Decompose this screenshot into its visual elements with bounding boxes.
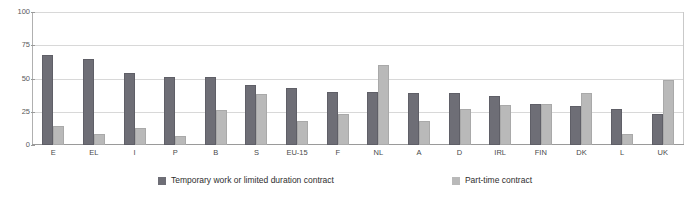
bar-D-series2 [460, 109, 471, 145]
bar-S-series2 [256, 94, 267, 145]
legend-label-1: Temporary work or limited duration contr… [171, 176, 334, 185]
bar-group-EL [74, 12, 115, 145]
bar-NL-series2 [378, 65, 389, 145]
bar-FIN-series1 [530, 104, 541, 145]
x-label-A: A [399, 148, 440, 157]
x-label-NL: NL [358, 148, 399, 157]
bar-FIN-series2 [541, 104, 552, 145]
x-label-IRL: IRL [480, 148, 521, 157]
bar-group-S [236, 12, 277, 145]
bar-EL-series2 [94, 134, 105, 145]
bar-chart: 0255075100 EELIPBSEU-15FNLADIRLFINDKLUK … [0, 0, 690, 205]
bar-S-series1 [245, 85, 256, 145]
y-tick-label-0: 0 [0, 141, 30, 148]
y-tick-label-25: 25 [0, 108, 30, 115]
y-tick-mark-0 [31, 145, 35, 146]
chart-legend: Temporary work or limited duration contr… [0, 176, 690, 185]
x-label-DK: DK [561, 148, 602, 157]
bar-group-FIN [521, 12, 562, 145]
bar-group-A [399, 12, 440, 145]
bar-group-EU-15 [277, 12, 318, 145]
x-label-P: P [155, 148, 196, 157]
bar-DK-series1 [570, 106, 581, 145]
x-axis-labels: EELIPBSEU-15FNLADIRLFINDKLUK [33, 148, 683, 157]
legend-item-2[interactable]: Part-time contract [452, 176, 532, 185]
bar-P-series1 [164, 77, 175, 145]
x-label-EL: EL [74, 148, 115, 157]
x-label-FIN: FIN [521, 148, 562, 157]
x-label-E: E [33, 148, 74, 157]
legend-swatch-dark [158, 177, 166, 185]
y-tick-label-50: 50 [0, 75, 30, 82]
bar-D-series1 [449, 93, 460, 145]
bar-B-series2 [216, 110, 227, 145]
legend-swatch-light [452, 177, 460, 185]
bar-L-series2 [622, 134, 633, 145]
bar-UK-series1 [652, 114, 663, 145]
bar-I-series2 [135, 128, 146, 145]
x-label-UK: UK [642, 148, 683, 157]
bar-group-D [439, 12, 480, 145]
y-tick-label-100: 100 [0, 8, 30, 15]
bar-group-I [114, 12, 155, 145]
bar-group-B [196, 12, 237, 145]
x-label-EU-15: EU-15 [277, 148, 318, 157]
bar-group-L [602, 12, 643, 145]
bar-P-series2 [175, 136, 186, 145]
bar-F-series2 [338, 114, 349, 145]
bar-EL-series1 [83, 59, 94, 145]
bar-EU-15-series2 [297, 121, 308, 145]
x-label-D: D [439, 148, 480, 157]
bar-IRL-series2 [500, 105, 511, 145]
bar-group-UK [642, 12, 683, 145]
bar-DK-series2 [581, 93, 592, 145]
bar-UK-series2 [663, 80, 674, 145]
bar-group-E [33, 12, 74, 145]
bar-group-P [155, 12, 196, 145]
bar-NL-series1 [367, 92, 378, 145]
y-tick-label-75: 75 [0, 41, 30, 48]
bar-group-F [317, 12, 358, 145]
bar-group-IRL [480, 12, 521, 145]
plot-area: 0255075100 EELIPBSEU-15FNLADIRLFINDKLUK [0, 0, 690, 160]
legend-label-2: Part-time contract [465, 176, 532, 185]
bar-B-series1 [205, 77, 216, 145]
bar-A-series2 [419, 121, 430, 145]
legend-item-1[interactable]: Temporary work or limited duration contr… [158, 176, 334, 185]
bar-F-series1 [327, 92, 338, 145]
bar-group-DK [561, 12, 602, 145]
bar-IRL-series1 [489, 96, 500, 145]
bar-E-series2 [53, 126, 64, 145]
x-label-S: S [236, 148, 277, 157]
bar-group-NL [358, 12, 399, 145]
bar-L-series1 [611, 109, 622, 145]
bar-A-series1 [408, 93, 419, 145]
x-label-I: I [114, 148, 155, 157]
x-label-B: B [196, 148, 237, 157]
x-label-L: L [602, 148, 643, 157]
bar-EU-15-series1 [286, 88, 297, 145]
bars-layer [33, 12, 683, 145]
bar-I-series1 [124, 73, 135, 145]
x-label-F: F [317, 148, 358, 157]
bar-E-series1 [42, 55, 53, 145]
